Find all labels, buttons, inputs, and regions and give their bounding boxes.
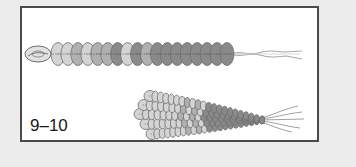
sequin-icon <box>249 113 254 121</box>
figure-panel: 9–10 <box>20 6 319 142</box>
single-strand <box>25 43 302 66</box>
end-sequin-icon <box>25 46 51 62</box>
sequin-icon <box>222 106 227 115</box>
sequin-bundle <box>134 91 304 140</box>
sequin-icon <box>238 110 243 118</box>
sequin-icon <box>243 112 248 120</box>
sequin-icon <box>260 116 265 124</box>
sequin-icon <box>206 102 212 111</box>
sequin-icon <box>220 43 234 66</box>
bundle-wire-tails-icon <box>260 106 304 132</box>
sequin-icon <box>217 105 223 114</box>
sequin-icon <box>211 104 217 113</box>
sequin-icon <box>254 115 259 123</box>
sequin-icon <box>233 109 238 118</box>
sequin-icon <box>200 101 206 110</box>
wire-tail-icon <box>234 51 302 59</box>
figure-label: 9–10 <box>30 116 68 136</box>
sequin-icon <box>227 108 232 117</box>
